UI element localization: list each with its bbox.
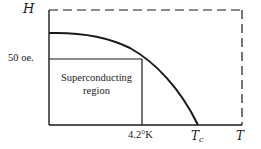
tc-symbol: T [191,129,199,143]
superconducting-region-label: Superconducting region [52,71,141,97]
y-axis-label: H [23,1,34,16]
region-label-line1: Superconducting [52,71,141,84]
critical-temperature-label: Tc [191,129,204,144]
tc-subscript: c [199,135,203,144]
x-tick-label-4.2k: 4.2°K [128,129,153,140]
x-axis-label: T [236,129,244,143]
region-label-line2: region [52,84,141,97]
y-tick-label-50oe: 50 oe. [8,52,34,63]
